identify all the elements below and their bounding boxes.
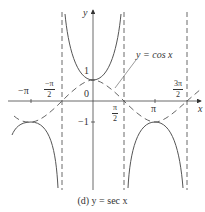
cos-annotation: y = cos x <box>136 50 172 60</box>
y-axis-label: y <box>83 8 87 18</box>
caption: (d) y = sec x <box>0 195 205 206</box>
tick-one: 1 <box>84 66 89 76</box>
tick-pi-half: π2 <box>112 104 118 123</box>
tick-neg-pi-half: −π2 <box>44 80 55 99</box>
tick-neg-pi: −π <box>18 86 29 96</box>
tick-neg-one: −1 <box>78 117 89 127</box>
tick-pi: π <box>151 104 156 114</box>
sec-chart <box>0 0 205 212</box>
origin-label: 0 <box>84 89 89 99</box>
x-axis-label: x <box>198 104 202 114</box>
tick-three-pi-half: 3π2 <box>173 80 183 99</box>
